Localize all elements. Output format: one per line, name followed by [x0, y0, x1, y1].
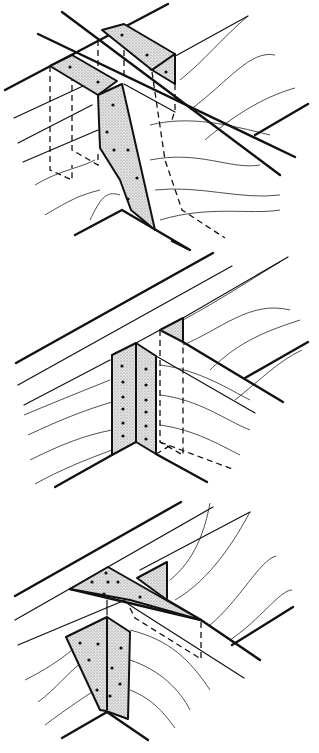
timber-outline — [16, 253, 213, 363]
nail-hole — [144, 383, 147, 386]
nail-hole — [135, 176, 138, 179]
nail-hole — [164, 70, 167, 73]
nail-hole — [90, 580, 93, 583]
timber-edge-line — [156, 356, 255, 413]
wood-grain-line — [160, 365, 250, 400]
nail-hole — [119, 646, 122, 649]
wood-grain-line — [35, 160, 95, 185]
nail-hole — [121, 434, 124, 437]
nail-hole — [118, 682, 121, 685]
wood-grain-line — [175, 512, 250, 600]
wood-grain-line — [35, 450, 112, 484]
timber-outline — [255, 104, 308, 135]
nail-hole — [138, 595, 141, 598]
nail-hole — [144, 437, 147, 440]
wood-grain-line — [130, 660, 190, 710]
wood-grain-line — [25, 650, 72, 680]
nail-hole — [105, 130, 108, 133]
nail-hole — [78, 641, 81, 644]
wood-grain-line — [38, 660, 85, 702]
hidden-edge-line — [160, 330, 183, 455]
metal-connector-plate — [160, 318, 183, 342]
nail-hole — [96, 642, 99, 645]
wood-grain-line — [28, 402, 112, 435]
nail-hole — [120, 33, 123, 36]
wood-grain-line — [130, 690, 175, 728]
panel-joist-hanger — [5, 4, 308, 250]
wood-grain-line — [160, 395, 250, 430]
nail-hole — [120, 364, 123, 367]
nail-hole — [108, 694, 111, 697]
nail-hole — [110, 666, 113, 669]
metal-connector-plate — [98, 84, 155, 230]
timber-outline — [156, 454, 207, 482]
timber-outline — [55, 455, 112, 487]
wood-grain-line — [183, 308, 290, 345]
wood-grain-line — [170, 503, 210, 580]
nail-hole — [144, 410, 147, 413]
wood-grain-line — [45, 690, 95, 725]
drawing-canvas — [0, 0, 319, 753]
nail-hole — [111, 103, 114, 106]
wood-grain-line — [190, 54, 275, 110]
timber-outline — [245, 342, 308, 378]
technical-illustration — [0, 0, 319, 753]
nail-hole — [126, 148, 129, 151]
nail-hole — [87, 658, 90, 661]
nail-hole — [121, 395, 124, 398]
timber-edge-line — [24, 360, 110, 405]
nail-hole — [144, 367, 147, 370]
nail-hole — [106, 580, 109, 583]
wood-grain-line — [30, 430, 112, 460]
nail-hole — [126, 197, 129, 200]
metal-connector-plate — [70, 567, 201, 620]
nail-hole — [95, 688, 98, 691]
hidden-edge-line — [50, 66, 72, 180]
wood-grain-line — [205, 88, 295, 140]
nail-hole — [102, 592, 105, 595]
metal-connector-plate — [112, 343, 136, 455]
nail-hole — [145, 53, 148, 56]
nail-hole — [121, 421, 124, 424]
nail-hole — [68, 65, 71, 68]
nail-hole — [144, 398, 147, 401]
timber-edge-line — [15, 507, 213, 620]
timber-edge-line — [140, 512, 250, 570]
nail-hole — [116, 580, 119, 583]
wood-grain-line — [155, 189, 280, 196]
nail-hole — [144, 424, 147, 427]
nail-hole — [121, 407, 124, 410]
wood-grain-line — [45, 190, 100, 215]
panel-gusset-plate — [15, 502, 293, 740]
wood-grain-line — [24, 380, 110, 415]
wood-grain-line — [230, 590, 292, 640]
timber-outline — [172, 241, 188, 249]
wood-grain-line — [210, 556, 276, 625]
panel-angle-connector — [16, 241, 308, 487]
nail-hole — [104, 571, 107, 574]
metal-connector-plate — [50, 55, 117, 95]
nail-hole — [121, 380, 124, 383]
wood-grain-line — [160, 210, 280, 220]
nail-hole — [112, 148, 115, 151]
hidden-edge-line — [160, 442, 235, 470]
wood-grain-line — [210, 320, 300, 370]
wood-grain-line — [90, 194, 120, 220]
wood-grain-line — [160, 425, 240, 455]
nail-hole — [96, 80, 99, 83]
hidden-edge-line — [152, 72, 225, 238]
timber-outline — [62, 712, 148, 740]
hidden-edge-line — [172, 84, 175, 120]
